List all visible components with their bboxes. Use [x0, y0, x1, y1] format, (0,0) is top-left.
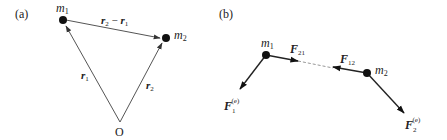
force-f12-label: F12 [339, 52, 356, 67]
panel-b: (b) m1 m2 F21 F12 F1(e) [219, 7, 421, 134]
mass-m1-dot-b [262, 51, 270, 59]
force-f1-external-arrow [240, 55, 266, 89]
mass-m2-label: m2 [174, 28, 187, 43]
panel-a: (a) m1 m2 r2 − r1 r1 r2 O [15, 1, 187, 139]
vector-r1-label: r1 [81, 69, 89, 83]
vector-r1-arrow [66, 26, 120, 122]
mass-m2-dot [162, 34, 170, 42]
force-f2-external-label: F2(e) [404, 116, 421, 134]
force-f12-arrow [333, 67, 367, 73]
panel-a-tag: (a) [15, 7, 28, 21]
vector-r2-arrow [120, 43, 162, 122]
two-body-diagram: (a) m1 m2 r2 − r1 r1 r2 O [0, 0, 447, 140]
vector-r2-minus-r1-label: r2 − r1 [101, 14, 129, 28]
mass-m1-label-b: m1 [261, 36, 274, 51]
mass-m1-dot [59, 16, 67, 24]
vector-r2-label: r2 [146, 79, 154, 93]
force-f21-label: F21 [289, 42, 306, 57]
interaction-dashed-line [298, 61, 333, 68]
force-f2-external-arrow [367, 73, 404, 113]
mass-m2-label-b: m2 [375, 63, 388, 78]
force-f1-external-label: F1(e) [223, 97, 240, 115]
mass-m1-label: m1 [56, 1, 69, 16]
mass-m2-dot-b [363, 69, 371, 77]
origin-label: O [115, 125, 124, 139]
panel-b-tag: (b) [219, 7, 233, 21]
